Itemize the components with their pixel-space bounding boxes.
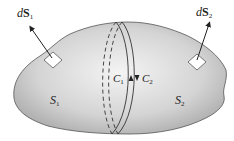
ds1-label: dS1 bbox=[17, 6, 34, 21]
normal-arrow-ds1-icon bbox=[31, 28, 52, 58]
ds2-label: dS2 bbox=[196, 5, 213, 20]
surface-diagram: C1 C2 dS1 dS2 S1 S2 bbox=[0, 0, 234, 141]
